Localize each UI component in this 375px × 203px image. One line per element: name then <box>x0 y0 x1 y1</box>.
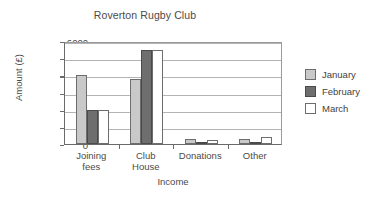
bar-group <box>76 43 109 144</box>
legend-item: March <box>305 100 360 117</box>
bar <box>98 110 109 144</box>
legend-swatch-icon <box>305 86 316 97</box>
legend-item: February <box>305 83 360 100</box>
bar <box>76 75 87 144</box>
x-tick-mark <box>173 145 174 149</box>
bar <box>239 139 250 144</box>
chart-title: Roverton Rugby Club <box>0 9 290 21</box>
bar <box>87 110 98 144</box>
legend-label: January <box>322 69 356 80</box>
x-tick-label: Donations <box>173 150 228 161</box>
bar <box>141 50 152 144</box>
chart-legend: JanuaryFebruaryMarch <box>305 66 360 117</box>
bar-group <box>239 43 272 144</box>
bar-chart: Roverton Rugby Club Amount (£) 010002000… <box>0 0 375 203</box>
bar <box>185 139 196 144</box>
x-tick-mark <box>119 145 120 149</box>
y-axis-title: Amount (£) <box>13 43 24 113</box>
bar <box>152 50 163 144</box>
x-tick-label: Joiningfees <box>64 150 119 172</box>
bar <box>250 142 261 144</box>
bar <box>130 79 141 144</box>
bar <box>207 140 218 144</box>
y-tick-mark <box>60 145 64 146</box>
bar-group <box>130 43 163 144</box>
legend-swatch-icon <box>305 103 316 114</box>
bar <box>261 137 272 144</box>
legend-item: January <box>305 66 360 83</box>
x-tick-label: ClubHouse <box>119 150 174 172</box>
bar <box>196 142 207 144</box>
bar-group <box>185 43 218 144</box>
x-axis-title: Income <box>64 176 282 187</box>
legend-label: February <box>322 86 360 97</box>
x-tick-label: Other <box>228 150 283 161</box>
x-tick-mark <box>228 145 229 149</box>
legend-swatch-icon <box>305 69 316 80</box>
plot-area <box>64 42 282 145</box>
legend-label: March <box>322 103 348 114</box>
